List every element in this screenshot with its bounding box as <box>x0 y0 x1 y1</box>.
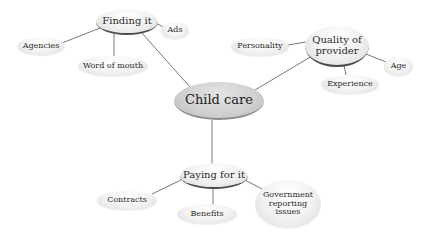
line-center-quality <box>250 56 312 93</box>
node-label: Government reporting issues <box>263 191 313 216</box>
line-quality-experience <box>344 65 346 75</box>
node-label: Ads <box>167 26 182 34</box>
node-finding-it[interactable]: Finding it <box>96 9 158 35</box>
node-label: Quality of provider <box>312 35 362 56</box>
node-label: Paying for it <box>183 170 245 181</box>
node-benefits[interactable]: Benefits <box>177 204 237 224</box>
node-ads[interactable]: Ads <box>161 22 189 39</box>
node-label: Agencies <box>23 42 60 50</box>
line-finding-agencies <box>62 28 100 43</box>
node-contracts[interactable]: Contracts <box>97 191 157 210</box>
node-label: Benefits <box>190 210 223 218</box>
node-agencies[interactable]: Agencies <box>17 37 65 55</box>
node-quality-of-provider[interactable]: Quality of provider <box>305 26 369 67</box>
node-label: Experience <box>327 80 373 88</box>
node-label: Personality <box>237 42 282 50</box>
node-label: Child care <box>185 93 253 107</box>
line-center-finding <box>141 32 190 87</box>
node-experience[interactable]: Experience <box>321 75 379 94</box>
line-quality-age <box>366 54 386 62</box>
node-child-care[interactable]: Child care <box>174 82 264 120</box>
node-paying-for-it[interactable]: Paying for it <box>180 163 248 189</box>
node-label-line: issues <box>263 208 313 216</box>
node-label-line: Quality of <box>312 35 362 46</box>
node-government-reporting-issues[interactable]: Government reporting issues <box>255 180 321 228</box>
node-label: Word of mouth <box>83 62 143 70</box>
node-personality[interactable]: Personality <box>231 37 289 56</box>
node-label: Finding it <box>102 16 151 27</box>
node-label: Age <box>391 62 407 70</box>
line-paying-contracts <box>152 180 181 194</box>
node-word-of-mouth[interactable]: Word of mouth <box>78 56 148 76</box>
node-label-line: provider <box>312 46 362 57</box>
line-quality-personality <box>288 42 306 45</box>
node-label: Contracts <box>107 196 147 204</box>
node-age[interactable]: Age <box>384 57 413 76</box>
